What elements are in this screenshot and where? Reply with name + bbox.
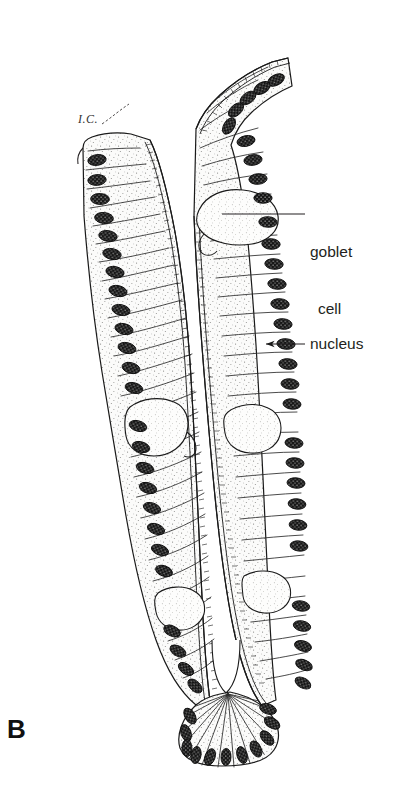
gland-drawing <box>78 58 314 767</box>
goblet-cell <box>242 571 291 613</box>
crypt-lumen-tip <box>212 640 240 693</box>
goblet-cell-label: goblet cell <box>310 204 352 337</box>
goblet-cell-label-line2: cell <box>310 299 352 318</box>
right-wall <box>194 58 314 706</box>
goblet-cell <box>155 587 205 630</box>
left-apex-tick <box>78 148 83 164</box>
ic-label: I.C. <box>78 112 98 127</box>
histology-figure <box>0 0 400 801</box>
goblet-cell-label-line1: goblet <box>310 242 352 261</box>
goblet-cell <box>224 405 281 454</box>
panel-letter: B <box>7 714 26 745</box>
ic-leader <box>102 104 129 124</box>
nucleus-label: nucleus <box>310 334 363 353</box>
